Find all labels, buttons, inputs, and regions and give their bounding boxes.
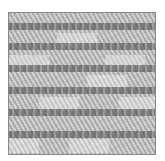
light-stitch-block bbox=[9, 139, 39, 153]
fabric-swatch bbox=[8, 12, 156, 155]
stitch-band bbox=[9, 109, 155, 116]
stitch-band bbox=[9, 23, 155, 30]
light-stitch-block bbox=[69, 139, 109, 153]
stitch-band bbox=[9, 131, 155, 138]
stitch-band bbox=[9, 65, 155, 72]
stitch-band bbox=[9, 87, 155, 94]
stitch-band bbox=[9, 43, 155, 50]
